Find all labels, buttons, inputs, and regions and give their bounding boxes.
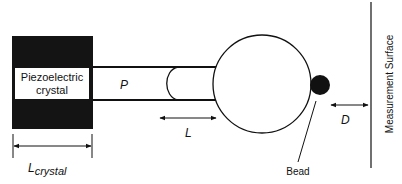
- measurement-surface: Measurement Surface: [371, 2, 395, 168]
- dimension-crystal-length: Lcrystal: [13, 134, 92, 177]
- meniscus-arc: [167, 67, 178, 100]
- dimension-length: L: [160, 118, 216, 140]
- crystal-dim-label-sub: crystal: [35, 165, 67, 177]
- bead-label: Bead: [286, 166, 309, 177]
- crystal-dim-label: Lcrystal: [28, 161, 67, 177]
- length-dim-label: L: [185, 126, 192, 140]
- crystal-label-line2: crystal: [36, 84, 68, 96]
- dimension-distance: D: [331, 105, 368, 127]
- crystal-label-line1: Piezoelectric: [21, 71, 84, 83]
- distance-dim-label: D: [341, 113, 350, 127]
- tube-label-p: P: [120, 78, 128, 92]
- bead-dot: [310, 75, 330, 95]
- crystal-dim-label-main: L: [28, 161, 35, 175]
- diagram-canvas: Piezoelectric crystal P Bead Measurement…: [0, 0, 402, 184]
- piezoelectric-crystal: Piezoelectric crystal: [12, 36, 93, 129]
- sphere: [213, 35, 311, 133]
- surface-label: Measurement Surface: [384, 34, 395, 133]
- tube: P: [93, 67, 217, 100]
